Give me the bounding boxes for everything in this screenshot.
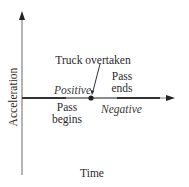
label-pass-ends-line1: Pass	[112, 70, 132, 82]
x-axis-arrow-icon	[166, 95, 175, 101]
pointer-line	[93, 64, 101, 93]
y-axis-arrow-icon	[19, 11, 25, 20]
label-truck-overtaken: Truck overtaken	[55, 54, 130, 66]
label-pass-begins-line1: Pass	[57, 101, 77, 113]
diagram-canvas	[0, 0, 189, 187]
x-axis-label: Time	[80, 167, 104, 179]
label-negative: Negative	[101, 103, 142, 115]
label-positive: Positive	[54, 84, 91, 96]
y-axis-label: Acceleration	[7, 68, 19, 127]
label-pass-begins-line2: begins	[52, 113, 82, 125]
label-pass-ends-line2: ends	[111, 82, 132, 94]
truck-overtaken-dot	[88, 95, 93, 100]
